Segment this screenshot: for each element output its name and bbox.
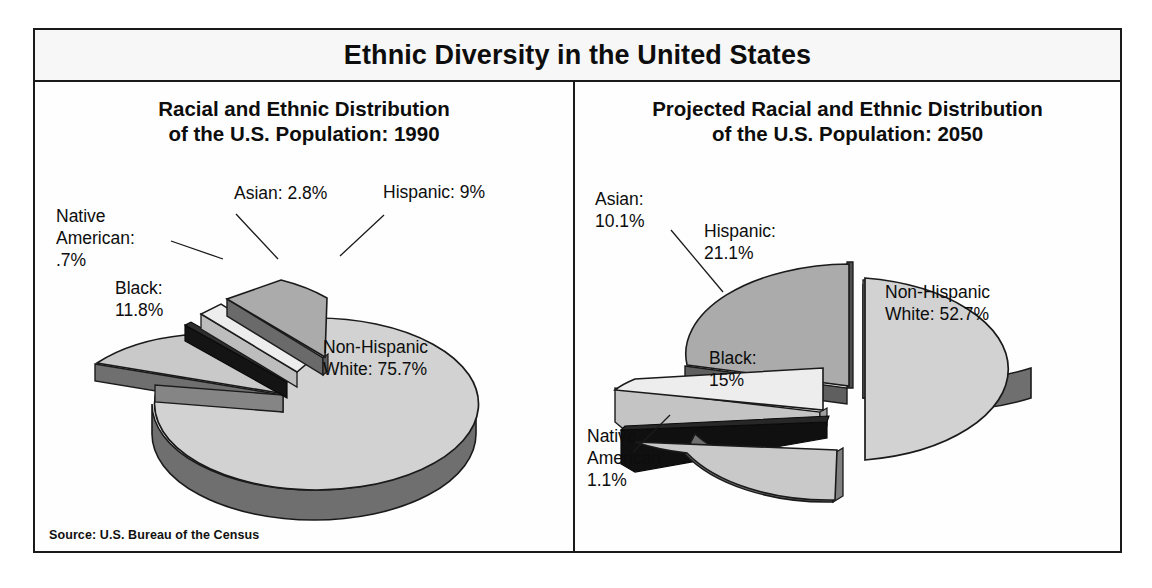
panels-container: Racial and Ethnic Distribution of the U.… (35, 82, 1120, 551)
label-black-1990-line2: 11.8% (115, 300, 163, 321)
label-asian-1990: Asian: 2.8% (234, 183, 327, 204)
pie-chart-2050 (575, 82, 1120, 551)
label-native-american-1990-line1: Native (56, 206, 106, 227)
panel-1990: Racial and Ethnic Distribution of the U.… (35, 82, 575, 551)
label-hispanic-2050-line2: 21.1% (704, 243, 754, 264)
native-leader-line-1990 (171, 241, 223, 259)
label-black-2050-line1: Black: (709, 348, 757, 369)
label-native-american-1990-line3: .7% (56, 250, 86, 271)
label-black-2050-line2: 15% (709, 370, 744, 391)
label-native-american-2050-line3: 1.1% (587, 470, 627, 491)
figure-frame: Ethnic Diversity in the United States Ra… (33, 28, 1122, 553)
label-hispanic-2050-line1: Hispanic: (704, 221, 776, 242)
label-non-hispanic-white-1990-line1: Non-Hispanic (323, 337, 428, 358)
label-non-hispanic-white-2050-line2: White: 52.7% (885, 304, 989, 325)
hispanic-leader-line-1990 (340, 215, 384, 256)
panel-2050: Projected Racial and Ethnic Distribution… (575, 82, 1120, 551)
label-non-hispanic-white-1990-line2: White: 75.7% (323, 359, 427, 380)
label-native-american-1990-line2: American: (56, 228, 135, 249)
label-asian-2050-line1: Asian: (595, 189, 644, 210)
label-black-1990-line1: Black: (115, 278, 163, 299)
label-non-hispanic-white-2050-line1: Non-Hispanic (885, 282, 990, 303)
asian-leader-line-1990 (236, 214, 278, 259)
figure-title: Ethnic Diversity in the United States (344, 40, 811, 71)
label-native-american-2050-line1: Native (587, 426, 637, 447)
source-note: Source: U.S. Bureau of the Census (49, 528, 259, 542)
label-asian-2050-line2: 10.1% (595, 211, 645, 232)
label-hispanic-1990: Hispanic: 9% (383, 182, 485, 203)
figure-banner: Ethnic Diversity in the United States (35, 30, 1120, 82)
label-native-american-2050-line2: American: (587, 448, 666, 469)
